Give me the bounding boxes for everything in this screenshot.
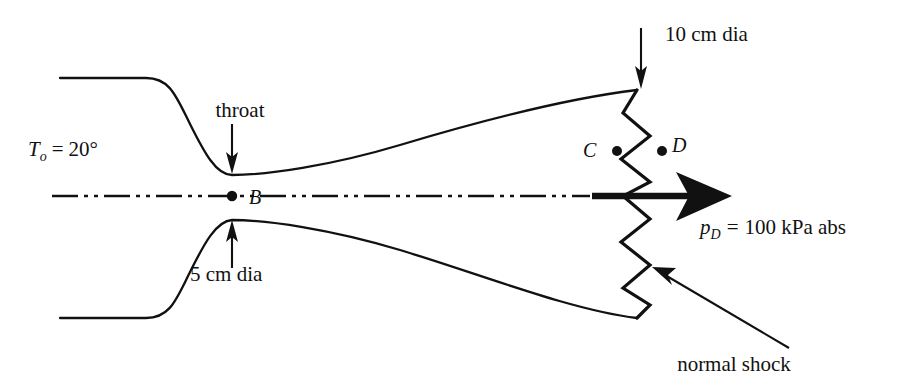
lower-nozzle-wall: [60, 220, 637, 318]
svg-text:pD=100 kPa abs: pD=100 kPa abs: [698, 215, 846, 242]
point-d-label: D: [671, 134, 687, 156]
normal-shock-zigzag: [621, 90, 650, 318]
normal-shock-label: normal shock: [677, 352, 791, 376]
exit-pressure-subscript: D: [710, 227, 721, 242]
point-b-label: B: [249, 186, 261, 208]
point-c-label: C: [583, 139, 597, 161]
stagnation-temperature-equals: =: [52, 137, 64, 161]
normal-shock-arrow-shaft: [665, 275, 789, 348]
throat-callout: throat: [216, 98, 265, 174]
upper-nozzle-wall: [60, 78, 637, 175]
nozzle-diagram-canvas: throat 5 cm dia 10 cm dia normal shock T…: [0, 0, 903, 390]
exit-pressure-label: pD=100 kPa abs: [698, 215, 846, 242]
exit-pressure-equals: =: [727, 215, 739, 239]
throat-diameter-label: 5 cm dia: [190, 262, 263, 286]
point-d-dot: [657, 146, 667, 156]
stagnation-temperature-label: To=20°: [28, 137, 98, 164]
normal-shock-callout: normal shock: [652, 267, 791, 376]
exit-pressure-symbol: p: [698, 215, 711, 239]
exit-pressure-value: 100 kPa abs: [744, 215, 846, 239]
nozzle-figure: throat 5 cm dia 10 cm dia normal shock T…: [0, 0, 903, 390]
throat-label: throat: [216, 98, 265, 122]
stagnation-temperature-subscript: o: [40, 149, 47, 164]
point-b-dot: [227, 191, 237, 201]
svg-text:To=20°: To=20°: [28, 137, 98, 164]
exit-diameter-label: 10 cm dia: [665, 22, 748, 46]
exit-diameter-callout: 10 cm dia: [635, 22, 748, 89]
point-c-dot: [612, 146, 622, 156]
exit-flow-arrow: [592, 172, 732, 221]
stagnation-temperature-value: 20°: [69, 137, 98, 161]
normal-shock-arrow-head: [652, 267, 676, 285]
